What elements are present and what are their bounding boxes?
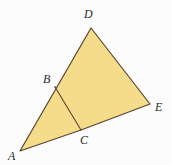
vertex-label-a: A — [8, 150, 15, 162]
vertex-label-b: B — [43, 73, 50, 85]
vertex-marker-B — [54, 86, 55, 87]
vertex-label-d: D — [84, 8, 93, 20]
vertex-marker-C — [80, 129, 81, 130]
geometry-figure: A B C D E — [0, 0, 172, 165]
vertex-label-c: C — [80, 134, 88, 146]
vertex-label-e: E — [155, 101, 162, 113]
